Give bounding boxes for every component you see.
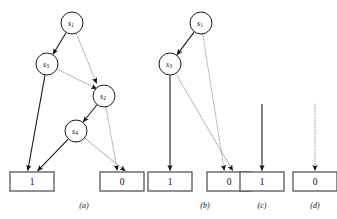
node-label-subscript: 4	[75, 130, 78, 136]
terminal-label-c-t1: 1	[260, 177, 265, 187]
node-a-s2: s2	[93, 85, 115, 107]
node-label-subscript: 3	[169, 63, 172, 69]
edge-a-s2-to-a-s4-solid	[83, 105, 97, 122]
node-a-s3: s3	[36, 53, 58, 75]
node-label-subscript: 1	[71, 22, 74, 28]
edge-b-s3-to-b-t0-dotted	[176, 74, 233, 171]
terminals-layer: 101010	[10, 172, 337, 191]
bdd-figure: s1s3s2s4s1s3 101010 (a)(b)(c)(d)	[0, 0, 337, 219]
node-b-s1: s1	[190, 12, 212, 34]
captions-layer: (a)(b)(c)(d)	[79, 201, 320, 210]
terminal-a-t0: 0	[100, 172, 144, 191]
terminal-label-d-t0: 0	[313, 177, 318, 187]
terminal-label-b-t0: 0	[227, 177, 232, 187]
panel-caption-c: (c)	[258, 201, 267, 210]
terminal-c-t1: 1	[240, 172, 284, 191]
terminal-b-t1: 1	[148, 172, 192, 191]
terminal-label-b-t1: 1	[168, 177, 173, 187]
node-a-s4: s4	[65, 120, 87, 142]
panel-caption-a: (a)	[79, 201, 89, 210]
edge-b-s1-to-b-t0-dotted	[203, 34, 224, 170]
node-label-subscript: 2	[103, 95, 106, 101]
panel-caption-b: (b)	[200, 201, 210, 210]
edge-a-s4-to-a-t1-solid	[38, 139, 68, 171]
edge-a-s1-to-a-s3-solid	[53, 33, 66, 54]
node-b-s3: s3	[159, 53, 181, 75]
edge-a-s2-to-a-t0-dotted	[106, 107, 117, 170]
terminal-a-t1: 1	[10, 172, 54, 191]
edge-a-s1-to-a-s2-dotted	[76, 34, 96, 84]
node-label-subscript: 1	[200, 22, 203, 28]
panel-caption-d: (d)	[310, 201, 320, 210]
node-label-subscript: 3	[46, 63, 49, 69]
edge-a-s3-to-a-s2-dotted	[57, 69, 96, 89]
nodes-layer: s1s3s2s4s1s3	[36, 12, 212, 142]
edge-a-s4-to-a-t0-dotted	[85, 138, 125, 171]
terminal-label-a-t0: 0	[120, 177, 125, 187]
figure-canvas: s1s3s2s4s1s3 101010 (a)(b)(c)(d)	[0, 0, 337, 219]
terminal-d-t0: 0	[293, 172, 337, 191]
edge-a-s3-to-a-t1-solid	[28, 75, 45, 170]
terminal-label-a-t1: 1	[30, 177, 35, 187]
node-a-s1: s1	[61, 12, 83, 34]
edge-b-s1-to-b-s3-solid	[177, 32, 194, 55]
